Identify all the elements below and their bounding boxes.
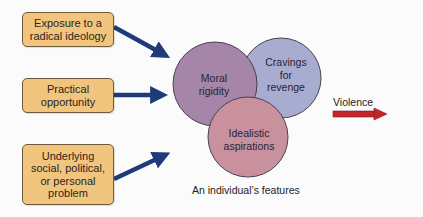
- input-box-exposure: Exposure to a radical ideology: [22, 12, 114, 47]
- input-box-line: radical ideology: [30, 30, 106, 43]
- label-idealistic-aspirations: Idealistic aspirations: [224, 127, 275, 152]
- input-box-line: problem: [31, 187, 105, 200]
- input-box-line: Exposure to a: [30, 17, 106, 30]
- circle-label-line: Cravings: [265, 56, 306, 69]
- arrow-underlying-problem: [114, 156, 163, 179]
- input-box-line: Underlying: [31, 150, 105, 163]
- circle-label-line: revenge: [265, 81, 306, 94]
- circle-label-line: Idealistic: [224, 127, 275, 140]
- input-box-line: social, political,: [31, 162, 105, 175]
- input-box-underlying-problem: Underlying social, political, or persona…: [22, 144, 114, 205]
- input-box-line: or personal: [31, 175, 105, 188]
- label-moral-rigidity: Moral rigidity: [199, 72, 229, 97]
- input-box-line: Practical: [41, 83, 95, 96]
- circle-label-line: aspirations: [224, 139, 275, 152]
- arrow-exposure: [114, 27, 163, 54]
- violence-label: Violence: [333, 96, 373, 108]
- input-box-practical-opportunity: Practical opportunity: [22, 78, 114, 113]
- circle-label-line: for: [265, 69, 306, 82]
- label-cravings-for-revenge: Cravings for revenge: [265, 56, 306, 94]
- features-caption: An individual’s features: [192, 184, 300, 196]
- circle-label-line: rigidity: [199, 84, 229, 97]
- circle-label-line: Moral: [199, 72, 229, 85]
- input-box-line: opportunity: [41, 96, 95, 109]
- arrow-violence: [333, 108, 387, 120]
